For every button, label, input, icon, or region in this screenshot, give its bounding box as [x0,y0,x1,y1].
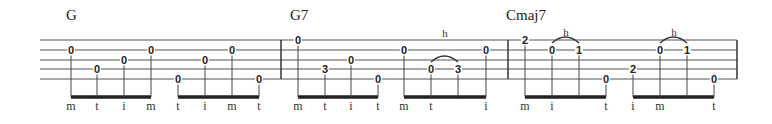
fret-number: 2 [629,64,637,75]
fret-number: 2 [521,35,529,46]
fret-number: 0 [174,74,182,85]
fret-number: 0 [548,45,556,56]
finger-label: m [520,100,529,112]
finger-label: i [349,100,352,112]
finger-label: i [484,100,487,112]
fret-number: 0 [228,45,236,56]
finger-label: t [176,100,179,112]
finger-label: t [95,100,98,112]
finger-label: t [323,100,326,112]
fret-number: 0 [656,45,664,56]
fret-number: 1 [575,45,583,56]
hammer-on-arc [431,56,458,62]
tablature: G G7 Cmaj7 000000000300003020102010 mtim… [0,0,772,124]
chord-label-g: G [66,8,77,23]
fret-number: 0 [120,55,128,66]
finger-label: t [257,100,260,112]
finger-label: m [227,100,236,112]
finger-label: m [655,100,664,112]
fret-number: 3 [454,64,462,75]
finger-label: t [712,100,715,112]
fret-number: 0 [602,74,610,85]
hammer-on-label: h [563,27,569,38]
finger-label: t [376,100,379,112]
fret-number: 0 [374,74,382,85]
finger-label: i [122,100,125,112]
finger-label: t [429,100,432,112]
fret-number: 0 [294,35,302,46]
finger-label: i [550,100,553,112]
finger-label: m [293,100,302,112]
fret-number: 0 [710,74,718,85]
finger-label: m [399,100,408,112]
fret-number: 0 [67,45,75,56]
finger-label: i [203,100,206,112]
fret-number: 0 [347,55,355,66]
finger-label: t [604,100,607,112]
hammer-on-label: h [442,28,448,39]
finger-label: m [66,100,75,112]
fret-number: 0 [201,55,209,66]
fret-number: 0 [400,45,408,56]
fret-number: 1 [683,45,691,56]
fret-number: 3 [321,64,329,75]
finger-label: m [146,100,155,112]
fret-number: 0 [482,45,490,56]
fret-number: 0 [427,64,435,75]
hammer-on-label: h [671,27,677,38]
fret-number: 0 [93,64,101,75]
fret-number: 0 [255,74,263,85]
finger-label: i [631,100,634,112]
chord-label-g7: G7 [290,8,308,23]
fret-number: 0 [147,45,155,56]
chord-label-cmaj7: Cmaj7 [506,8,546,23]
